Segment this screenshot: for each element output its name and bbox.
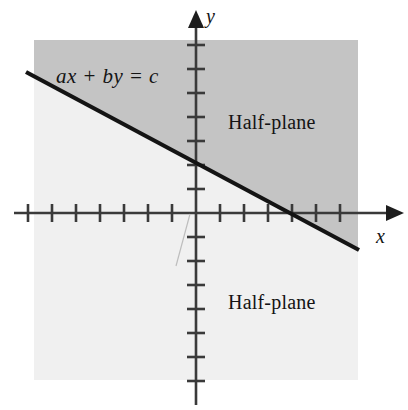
- half-plane-figure: ax + by = c y x Half-plane Half-plane: [0, 0, 408, 410]
- x-axis-arrow-icon: [386, 205, 404, 221]
- y-axis-arrow-icon: [188, 10, 204, 28]
- y-axis-label: y: [206, 6, 215, 26]
- half-plane-diagram: [0, 0, 408, 410]
- upper-half-plane-label: Half-plane: [228, 112, 316, 132]
- lower-half-plane-label: Half-plane: [228, 292, 316, 312]
- x-axis-label: x: [376, 226, 385, 246]
- equation-label: ax + by = c: [56, 66, 159, 87]
